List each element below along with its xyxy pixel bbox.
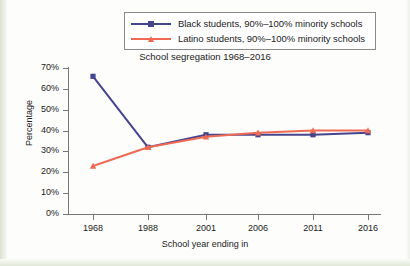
x-tick — [313, 215, 314, 220]
series-line — [93, 131, 368, 166]
legend-swatch-latino-students — [131, 33, 171, 45]
data-point-marker — [90, 74, 95, 79]
series-lines — [68, 68, 380, 214]
legend-item-latino-students: Latino students, 90%–100% minority schoo… — [131, 31, 369, 46]
chart-legend: Black students, 90%–100% minority school… — [124, 12, 376, 50]
y-tick-label: 70% — [19, 62, 59, 72]
page-edge-left — [0, 0, 7, 266]
y-tick-label: 0% — [19, 208, 59, 218]
page-edge-right — [406, 0, 410, 266]
x-tick-label: 2011 — [283, 223, 343, 233]
x-tick-label: 2016 — [338, 223, 398, 233]
x-axis-title: School year ending in — [0, 239, 410, 249]
series-line — [93, 76, 368, 147]
chart-page: Black students, 90%–100% minority school… — [0, 0, 410, 266]
x-tick — [148, 215, 149, 220]
y-tick — [63, 214, 68, 215]
page-edge-bottom — [0, 259, 410, 266]
y-tick-label: 10% — [19, 187, 59, 197]
x-axis-line — [68, 214, 381, 215]
legend-label-black-students: Black students, 90%–100% minority school… — [178, 18, 362, 29]
y-axis-title: Percentage — [24, 78, 34, 168]
x-tick-label: 2006 — [228, 223, 288, 233]
legend-item-black-students: Black students, 90%–100% minority school… — [131, 16, 369, 31]
legend-label-latino-students: Latino students, 90%–100% minority schoo… — [178, 33, 365, 44]
chart-title: School segregation 1968–2016 — [0, 51, 410, 62]
legend-swatch-black-students — [131, 18, 171, 30]
x-tick — [93, 215, 94, 220]
x-tick — [368, 215, 369, 220]
plot-area — [68, 68, 380, 214]
x-tick-label: 1968 — [63, 223, 123, 233]
x-tick — [258, 215, 259, 220]
x-tick — [206, 215, 207, 220]
x-tick-label: 1988 — [118, 223, 178, 233]
x-tick-label: 2001 — [176, 223, 236, 233]
